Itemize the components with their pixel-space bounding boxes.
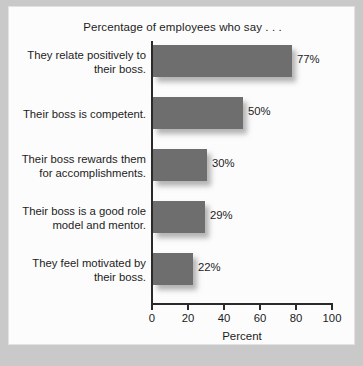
category-label-line: their boss. bbox=[14, 270, 146, 284]
x-axis-tick-label: 80 bbox=[281, 312, 311, 324]
bar-row: Their boss is a good role model and ment… bbox=[9, 201, 356, 251]
bar-wrapper[interactable] bbox=[153, 201, 205, 233]
bar-row: They relate positively to their boss. 77… bbox=[9, 45, 356, 95]
x-axis-tick-label: 0 bbox=[137, 312, 167, 324]
bar[interactable] bbox=[153, 149, 207, 181]
category-label-line: Their boss is competent. bbox=[14, 107, 146, 121]
bar-wrapper[interactable] bbox=[153, 149, 207, 181]
bar[interactable] bbox=[153, 45, 292, 77]
category-label-line: Their boss is a good role bbox=[14, 204, 146, 218]
plot-area: They relate positively to their boss. 77… bbox=[9, 7, 356, 346]
bar-wrapper[interactable] bbox=[153, 45, 292, 77]
x-axis-title: Percent bbox=[151, 330, 333, 342]
x-axis-tick bbox=[151, 303, 153, 310]
x-axis-tick-label: 20 bbox=[173, 312, 203, 324]
category-label: Their boss is a good role model and ment… bbox=[14, 204, 146, 232]
x-axis-line bbox=[151, 303, 333, 305]
x-axis-tick bbox=[223, 303, 225, 310]
bar-row: Their boss rewards them for accomplishme… bbox=[9, 149, 356, 199]
bar[interactable] bbox=[153, 253, 193, 285]
x-axis-tick-label: 40 bbox=[209, 312, 239, 324]
x-axis-tick-label: 100 bbox=[317, 312, 347, 324]
x-axis-tick bbox=[331, 303, 333, 310]
category-label: Their boss is competent. bbox=[14, 107, 146, 121]
x-axis-tick bbox=[295, 303, 297, 310]
x-axis-tick bbox=[187, 303, 189, 310]
screenshot-root: Percentage of employees who say . . . Th… bbox=[0, 0, 363, 366]
category-label-line: Their boss rewards them bbox=[14, 152, 146, 166]
category-label: Their boss rewards them for accomplishme… bbox=[14, 152, 146, 180]
category-label-line: model and mentor. bbox=[14, 218, 146, 232]
chart-panel: Percentage of employees who say . . . Th… bbox=[8, 6, 355, 345]
x-axis-tick-label: 60 bbox=[245, 312, 275, 324]
category-label: They relate positively to their boss. bbox=[14, 48, 146, 76]
bar-row: They feel motivated by their boss. 22% bbox=[9, 253, 356, 303]
bar-value-label: 30% bbox=[212, 157, 235, 169]
bar-wrapper[interactable] bbox=[153, 253, 193, 285]
category-label-line: their boss. bbox=[14, 62, 146, 76]
bar-value-label: 50% bbox=[248, 105, 271, 117]
category-label: They feel motivated by their boss. bbox=[14, 256, 146, 284]
bar[interactable] bbox=[153, 97, 243, 129]
bar-wrapper[interactable] bbox=[153, 97, 243, 129]
category-label-line: They feel motivated by bbox=[14, 256, 146, 270]
x-axis-tick bbox=[259, 303, 261, 310]
bar-value-label: 77% bbox=[297, 53, 320, 65]
bar[interactable] bbox=[153, 201, 205, 233]
bar-value-label: 29% bbox=[210, 209, 233, 221]
bar-value-label: 22% bbox=[198, 261, 221, 273]
category-label-line: They relate positively to bbox=[14, 48, 146, 62]
category-label-line: for accomplishments. bbox=[14, 166, 146, 180]
bar-row: Their boss is competent. 50% bbox=[9, 97, 356, 147]
